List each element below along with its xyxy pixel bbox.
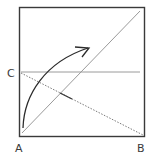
origami-diagram: C A B: [0, 0, 153, 162]
label-c: C: [7, 67, 15, 80]
fold-arrow: [23, 48, 88, 128]
crease-mark: [60, 93, 72, 99]
label-a: A: [15, 142, 23, 155]
label-b: B: [137, 142, 145, 155]
